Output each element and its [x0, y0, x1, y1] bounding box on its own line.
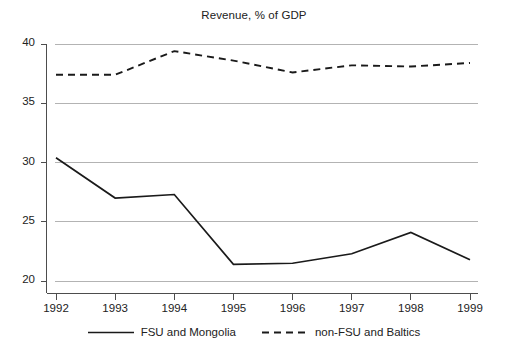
series-line-2: [56, 51, 470, 75]
x-axis-label-1992: 1992: [31, 302, 81, 314]
solid-line-icon: [88, 328, 134, 337]
x-axis-label-1996: 1996: [268, 302, 318, 314]
y-axis-label-20: 20: [7, 273, 35, 285]
plot-area: [0, 0, 508, 350]
legend-item-2[interactable]: non-FSU and Baltics: [262, 326, 420, 338]
x-axis-label-1994: 1994: [149, 302, 199, 314]
x-axis-label-1995: 1995: [208, 302, 258, 314]
x-axis-label-1993: 1993: [90, 302, 140, 314]
y-axis-label-25: 25: [7, 214, 35, 226]
legend-label: FSU and Mongolia: [141, 326, 236, 338]
x-axis-label-1998: 1998: [386, 302, 436, 314]
series-line-1: [56, 158, 470, 265]
x-axis-label-1999: 1999: [445, 302, 495, 314]
gridlines: [55, 44, 478, 281]
dashed-line-icon: [262, 328, 308, 337]
chart-legend: FSU and Mongolianon-FSU and Baltics: [0, 326, 508, 338]
y-axis-label-30: 30: [7, 155, 35, 167]
y-axis-label-35: 35: [7, 95, 35, 107]
legend-item-1[interactable]: FSU and Mongolia: [88, 326, 236, 338]
axes: [41, 44, 478, 300]
y-axis-label-40: 40: [7, 36, 35, 48]
legend-label: non-FSU and Baltics: [315, 326, 420, 338]
x-axis-label-1997: 1997: [327, 302, 377, 314]
chart-container: Revenue, % of GDP 2025303540 19921993199…: [0, 0, 508, 350]
